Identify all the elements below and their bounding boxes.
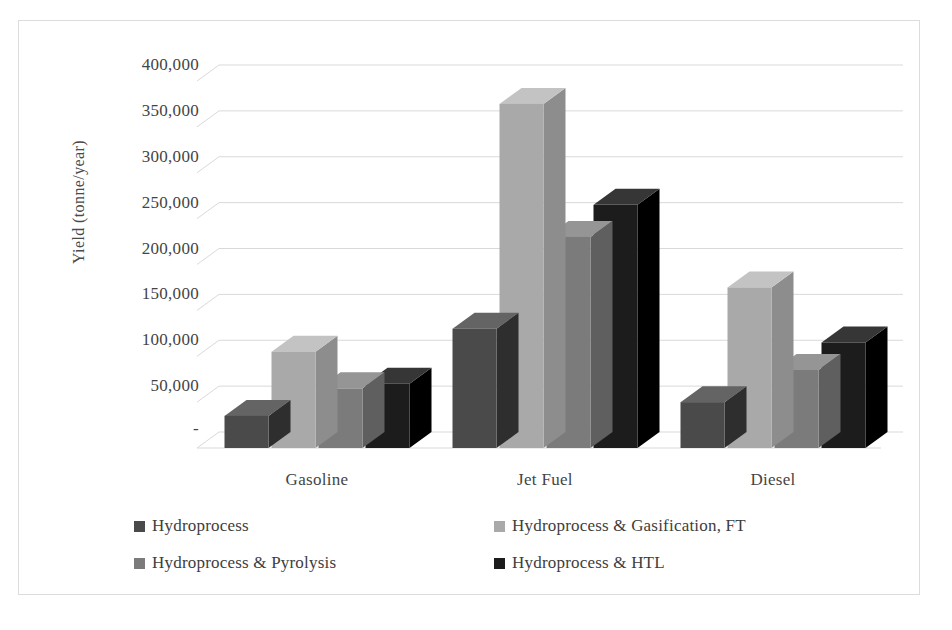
chart-legend: HydroprocessHydroprocess & Gasification,…	[134, 516, 834, 573]
x-axis-tick-label: Jet Fuel	[465, 470, 625, 490]
x-axis-tick-label: Diesel	[693, 470, 853, 490]
y-axis-tick-label: 350,000	[99, 102, 199, 119]
y-axis-tick-label: 100,000	[99, 331, 199, 348]
legend-swatch-icon	[134, 521, 145, 532]
y-axis-tick-label: -	[99, 420, 199, 437]
y-axis-title: Yield (tonne/year)	[70, 102, 88, 302]
legend-item-label: Hydroprocess & Pyrolysis	[152, 553, 336, 573]
bar-jet-fuel-series-1	[453, 313, 519, 448]
y-axis-tick-label: 400,000	[99, 56, 199, 73]
figure-frame: Yield (tonne/year) 400,000350,000300,000…	[18, 20, 920, 595]
legend-item-2[interactable]: Hydroprocess & Gasification, FT	[494, 516, 834, 536]
legend-swatch-icon	[494, 558, 505, 569]
chart-plot-area: Yield (tonne/year) 400,000350,000300,000…	[19, 21, 921, 596]
y-axis-tick-labels: 400,000350,000300,000250,000200,000150,0…	[97, 21, 199, 596]
legend-swatch-icon	[134, 558, 145, 569]
y-axis-tick-label: 250,000	[99, 194, 199, 211]
legend-item-3[interactable]: Hydroprocess & Pyrolysis	[134, 553, 494, 573]
y-axis-tick-label: 300,000	[99, 148, 199, 165]
legend-swatch-icon	[494, 521, 505, 532]
y-axis-tick-label: 200,000	[99, 240, 199, 257]
legend-item-label: Hydroprocess	[152, 516, 249, 536]
y-axis-tick-label: 150,000	[99, 285, 199, 302]
bar-diesel-series-1	[681, 386, 747, 448]
legend-item-1[interactable]: Hydroprocess	[134, 516, 494, 536]
x-axis-tick-label: Gasoline	[237, 470, 397, 490]
legend-item-4[interactable]: Hydroprocess & HTL	[494, 553, 834, 573]
legend-item-label: Hydroprocess & Gasification, FT	[512, 516, 746, 536]
y-axis-tick-label: 50,000	[99, 377, 199, 394]
legend-item-label: Hydroprocess & HTL	[512, 553, 665, 573]
